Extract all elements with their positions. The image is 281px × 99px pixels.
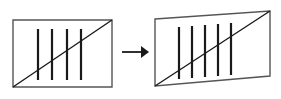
- diagram-background: [0, 0, 281, 99]
- diagram-canvas: Geometric transformation diagram A recta…: [0, 0, 281, 99]
- transformation-diagram: Geometric transformation diagram A recta…: [0, 0, 281, 99]
